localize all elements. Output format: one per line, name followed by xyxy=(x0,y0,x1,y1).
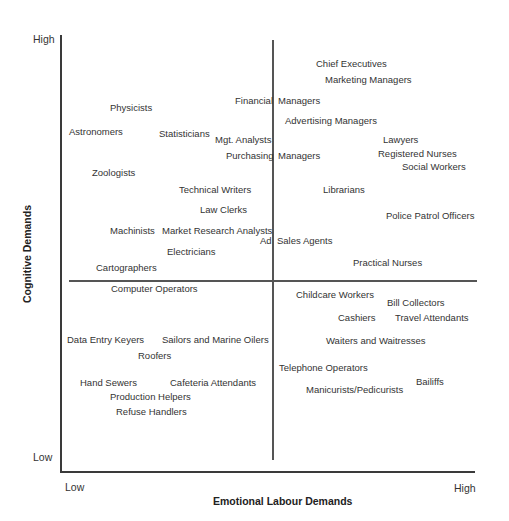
occupation-label: Bailiffs xyxy=(416,376,444,387)
occupation-label: Social Workers xyxy=(402,161,466,172)
x-axis-line xyxy=(60,471,475,473)
occupation-label: Managers xyxy=(278,150,320,161)
occupation-label: Statisticians xyxy=(159,128,210,139)
occupation-label: Technical Writers xyxy=(179,184,251,195)
occupation-label: Roofers xyxy=(138,350,171,361)
occupation-label: Sales Agents xyxy=(277,235,332,246)
occupation-label: Chief Executives xyxy=(316,58,387,69)
occupation-label: Cartographers xyxy=(96,262,157,273)
occupation-label: Hand Sewers xyxy=(80,377,137,388)
occupation-label: Lawyers xyxy=(383,134,418,145)
x-axis-high-label: High xyxy=(454,482,476,494)
occupation-label: Physicists xyxy=(110,102,152,113)
y-axis-line xyxy=(60,35,62,473)
occupation-label: Zoologists xyxy=(92,167,135,178)
occupation-label: Advertising Managers xyxy=(285,115,377,126)
occupation-label: Police Patrol Officers xyxy=(386,210,475,221)
occupation-label: Registered Nurses xyxy=(378,148,457,159)
occupation-label: Production Helpers xyxy=(110,391,191,402)
occupation-label: Cafeteria Attendants xyxy=(170,377,256,388)
occupation-label: Sailors and Marine Oilers xyxy=(162,334,269,345)
occupation-label: Waiters and Waitresses xyxy=(326,335,426,346)
occupation-label: Librarians xyxy=(323,184,365,195)
occupation-label: Data Entry Keyers xyxy=(67,334,144,345)
occupation-label: Childcare Workers xyxy=(296,289,374,300)
y-axis-low-label: Low xyxy=(33,451,52,463)
occupation-label: Computer Operators xyxy=(111,283,198,294)
occupation-label: Bill Collectors xyxy=(387,297,445,308)
occupation-label: Market Research Analysts xyxy=(162,225,272,236)
y-axis-title: Cognitive Demands xyxy=(21,205,33,303)
occupation-label: Cashiers xyxy=(338,312,376,323)
occupation-label: Machinists xyxy=(110,225,155,236)
occupation-label: Ad xyxy=(260,235,272,246)
occupation-label: Marketing Managers xyxy=(325,74,412,85)
occupation-label: Travel Attendants xyxy=(395,312,469,323)
y-axis-high-label: High xyxy=(33,33,55,45)
x-axis-low-label: Low xyxy=(65,481,84,493)
occupation-label: Purchasing xyxy=(226,150,274,161)
occupation-label: Law Clerks xyxy=(200,204,247,215)
occupation-label: Managers xyxy=(278,95,320,106)
occupation-label: Refuse Handlers xyxy=(116,406,187,417)
occupation-label: Telephone Operators xyxy=(279,362,368,373)
occupation-label: Financial xyxy=(235,95,273,106)
occupation-label: Astronomers xyxy=(69,126,123,137)
horizontal-quadrant-divider xyxy=(69,280,477,282)
occupation-label: Manicurists/Pedicurists xyxy=(306,384,403,395)
occupation-label: Mgt. Analysts xyxy=(215,134,272,145)
x-axis-title: Emotional Labour Demands xyxy=(213,495,352,507)
occupation-label: Practical Nurses xyxy=(353,257,422,268)
occupation-label: Electricians xyxy=(167,246,216,257)
